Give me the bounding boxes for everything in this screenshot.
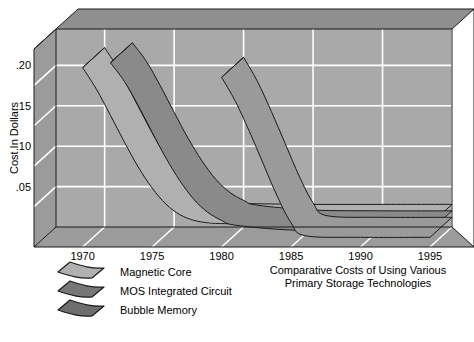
legend-swatch [58,300,104,316]
chart-title-line-2: Primary Storage Technologies [285,277,432,289]
chart-top-face [56,9,474,29]
chart-container: Cost In Dollars .05.10.15.20 19701975198… [0,0,474,342]
legend-label: Bubble Memory [120,304,198,316]
x-tick-label: 1970 [70,250,94,262]
chart-title-line-1: Comparative Costs of Using Various [270,264,447,276]
y-tick-label: .20 [16,59,31,71]
legend-item-magnetic-core: Magnetic Core [58,262,192,278]
x-tick-label: 1995 [418,250,442,262]
y-tick-label: .05 [16,181,31,193]
x-tick-label: 1975 [140,250,164,262]
legend-item-mos-integrated-circuit: MOS Integrated Circuit [58,281,232,297]
legend-swatch [58,281,104,297]
chart-left-wall-face [34,29,56,247]
x-axis-tick-labels: 197019751980198519901995 [70,250,442,262]
x-tick-label: 1990 [348,250,372,262]
legend-label: MOS Integrated Circuit [120,285,232,297]
x-tick-label: 1985 [279,250,303,262]
legend-swatch [58,262,104,278]
x-tick-label: 1980 [209,250,233,262]
y-tick-label: .10 [16,140,31,152]
y-axis-title: Cost In Dollars [8,101,20,174]
y-tick-label: .15 [16,100,31,112]
legend-label: Magnetic Core [120,266,192,278]
chart-legend: Magnetic CoreMOS Integrated CircuitBubbl… [58,262,232,316]
legend-item-bubble-memory: Bubble Memory [58,300,198,316]
comparative-costs-chart: Cost In Dollars .05.10.15.20 19701975198… [0,0,474,342]
